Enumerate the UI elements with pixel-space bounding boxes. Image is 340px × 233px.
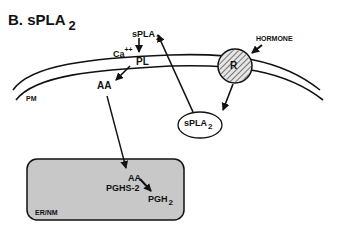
pl-label: PL <box>136 57 149 67</box>
aa-membrane-label: AA <box>97 81 111 91</box>
pm-label: PM <box>26 95 37 102</box>
figure-title: B. sPLA2 <box>8 12 76 32</box>
pgh2-label: PGH2 <box>148 195 173 207</box>
arrow-aa-to-er <box>107 96 126 168</box>
spla2-top-label: sPLA2 <box>132 30 160 42</box>
arrow-pl-to-aa <box>116 66 130 80</box>
plasma-membrane-outer <box>13 55 320 90</box>
receptor-label: R <box>230 61 237 71</box>
er-nm-label: ER/NM <box>35 209 58 216</box>
plasma-membrane-inner <box>16 66 323 100</box>
hormone-label: HORMONE <box>256 35 293 42</box>
arrow-spla2-oval-to-top <box>158 35 193 112</box>
spla2-oval-label: sPLA2 <box>184 119 212 131</box>
pghs2-label: PGHS-2 <box>106 184 140 193</box>
aa-er-label: AA <box>128 174 141 183</box>
arrow-hormone-to-r <box>252 45 262 53</box>
calcium-label: Ca++ <box>113 46 133 59</box>
arrow-r-to-spla2 <box>223 84 233 110</box>
